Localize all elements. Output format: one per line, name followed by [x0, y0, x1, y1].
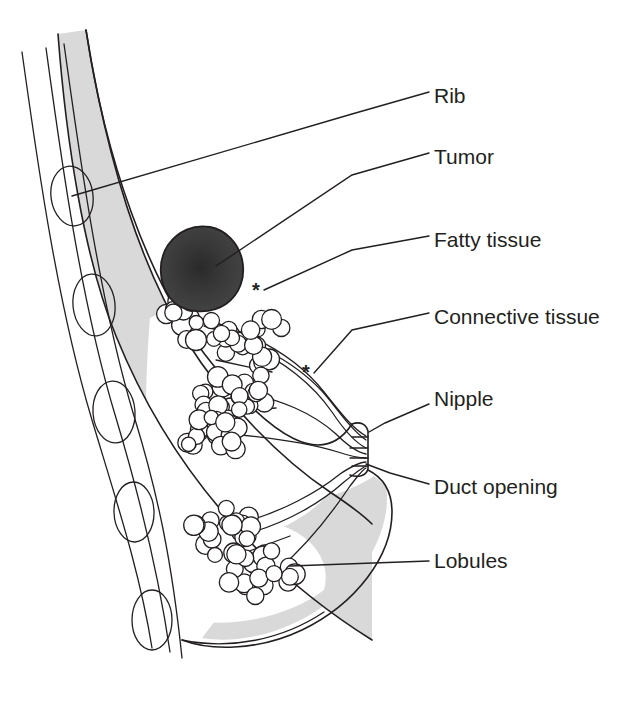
- leader-line-connective-tissue: [314, 313, 429, 373]
- breast-anatomy-diagram: ** RibTumorFatty tissueConnective tissue…: [0, 0, 624, 706]
- lobule-alveolus: [241, 321, 259, 339]
- lobule-alveolus: [208, 548, 223, 563]
- rib-5: [132, 590, 172, 650]
- leader-line-rib: [72, 92, 429, 196]
- asterisk-marker-fatty-tissue: *: [252, 279, 260, 301]
- leader-line-fatty-tissue: [264, 236, 429, 290]
- diagram-canvas: ** RibTumorFatty tissueConnective tissue…: [0, 0, 624, 706]
- lobule-alveolus: [249, 381, 267, 399]
- label-tumor[interactable]: Tumor: [434, 145, 494, 168]
- lobule-alveolus: [262, 310, 282, 330]
- lobule-alveolus: [282, 568, 299, 585]
- lobule-alveolus: [247, 587, 264, 604]
- label-group-duct-opening[interactable]: Duct opening: [366, 464, 558, 498]
- asterisk-marker-connective-tissue: *: [302, 361, 310, 383]
- lobule-alveolus: [216, 413, 235, 432]
- label-lobules[interactable]: Lobules: [434, 549, 508, 572]
- lobule-alveolus: [263, 543, 279, 559]
- lobule-alveolus: [239, 531, 255, 547]
- lobule-alveolus: [189, 316, 203, 330]
- tumor-group: [161, 226, 243, 311]
- label-rib[interactable]: Rib: [434, 84, 466, 107]
- label-group-nipple[interactable]: Nipple: [369, 387, 494, 432]
- label-group-connective-tissue[interactable]: Connective tissue: [314, 305, 600, 373]
- label-connective-tissue[interactable]: Connective tissue: [434, 305, 600, 328]
- label-nipple[interactable]: Nipple: [434, 387, 494, 410]
- tumor-mass: [161, 226, 243, 311]
- lobule-alveolus: [227, 545, 246, 564]
- lobule-alveolus: [266, 566, 282, 582]
- lobule-alveolus: [213, 325, 229, 341]
- label-group-rib[interactable]: Rib: [72, 84, 466, 196]
- leader-line-nipple: [369, 404, 429, 432]
- leader-line-tumor: [216, 153, 429, 266]
- lobule-alveolus: [182, 437, 196, 451]
- lobule-alveolus: [222, 432, 241, 451]
- lobule-alveolus: [184, 515, 204, 535]
- label-fatty-tissue[interactable]: Fatty tissue: [434, 228, 541, 251]
- lobule-alveolus: [222, 515, 242, 535]
- label-group-fatty-tissue[interactable]: Fatty tissue: [264, 228, 541, 290]
- lobule-alveolus: [232, 402, 247, 417]
- lobule-alveolus: [186, 330, 207, 351]
- lobule-alveolus: [250, 569, 268, 587]
- label-duct-opening[interactable]: Duct opening: [434, 475, 558, 498]
- lobule-alveolus: [218, 500, 234, 516]
- lobule-alveolus: [219, 573, 238, 592]
